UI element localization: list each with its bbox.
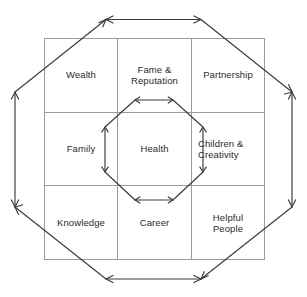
outer-octagon-top-right-diagonal bbox=[201, 20, 292, 93]
three-by-three-grid bbox=[45, 39, 265, 260]
inner-octagon-top-right-diagonal bbox=[173, 100, 203, 127]
outer-octagon-top-left-diagonal bbox=[15, 20, 106, 93]
inner-octagon-top-left-diagonal bbox=[105, 100, 135, 127]
outer-octagon-bottom-right-diagonal bbox=[201, 207, 292, 279]
outer-octagon bbox=[11, 16, 296, 283]
grid-outer-border bbox=[45, 39, 265, 260]
outer-octagon-bottom-left-diagonal bbox=[15, 207, 106, 279]
bagua-svg-canvas bbox=[0, 0, 307, 297]
bagua-diagram: Wealth Fame & Reputation Partnership Fam… bbox=[0, 0, 307, 297]
outer-octagon-top-left-diagonal-arrowhead bbox=[98, 20, 106, 28]
